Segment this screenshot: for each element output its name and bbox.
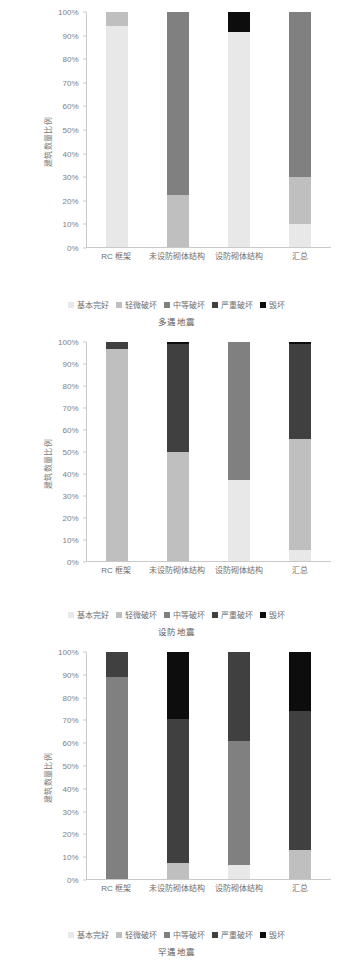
legend-swatch-icon [164, 302, 170, 308]
bar-segment[interactable] [289, 711, 311, 849]
bar-slot [151, 652, 205, 879]
legend-label: 基本完好 [77, 929, 109, 940]
x-axis-label: 设防砌体结构 [209, 564, 268, 575]
bar-segment[interactable] [289, 550, 311, 561]
plot-area-2: 建筑数量比例 0%10%20%30%40%50%60%70%80%90%100%… [17, 330, 337, 598]
x-axis-label: 汇总 [270, 564, 329, 575]
legend-item[interactable]: 轻微破坏 [116, 929, 157, 940]
y-tick-label: 100% [58, 648, 78, 657]
legend-label: 严重破坏 [221, 609, 253, 620]
legend-label: 毁坏 [269, 299, 285, 310]
stacked-bar[interactable] [106, 12, 128, 247]
x-axis-labels-1: RC 框架未设防砌体结构设防砌体结构汇总 [86, 248, 331, 262]
x-axis-label: 未设防砌体结构 [148, 882, 207, 893]
stacked-bar[interactable] [167, 12, 189, 247]
y-tick-label: 100% [58, 8, 78, 17]
bar-segment[interactable] [289, 344, 311, 439]
stacked-bar[interactable] [228, 12, 250, 247]
legend-item[interactable]: 基本完好 [68, 299, 109, 310]
stacked-bar[interactable] [106, 342, 128, 561]
bar-segment[interactable] [167, 652, 189, 719]
y-tick-label: 50% [62, 448, 78, 457]
legend-item[interactable]: 毁坏 [260, 299, 285, 310]
legend-label: 中等破坏 [173, 929, 205, 940]
legend-item[interactable]: 轻微破坏 [116, 609, 157, 620]
legend-swatch-icon [68, 302, 74, 308]
legend-label: 中等破坏 [173, 299, 205, 310]
bar-segment[interactable] [167, 12, 189, 195]
legend-item[interactable]: 中等破坏 [164, 929, 205, 940]
bar-segment[interactable] [289, 12, 311, 177]
legend-swatch-icon [68, 932, 74, 938]
y-tick-label: 0% [67, 876, 79, 885]
bar-segment[interactable] [106, 12, 128, 26]
legend-label: 轻微破坏 [125, 299, 157, 310]
y-tick-label: 80% [62, 382, 78, 391]
bar-segment[interactable] [167, 195, 189, 247]
bar-segment[interactable] [228, 741, 250, 866]
stacked-bar[interactable] [289, 652, 311, 879]
x-axis-labels-2: RC 框架未设防砌体结构设防砌体结构汇总 [86, 562, 331, 576]
legend-label: 轻微破坏 [125, 929, 157, 940]
bars-container-1 [86, 12, 331, 248]
legend-item[interactable]: 轻微破坏 [116, 299, 157, 310]
plot-area-3: 建筑数量比例 0%10%20%30%40%50%60%70%80%90%100%… [17, 640, 337, 916]
stacked-bar[interactable] [228, 652, 250, 879]
x-axis-label: 设防砌体结构 [209, 882, 268, 893]
x-axis-labels-3: RC 框架未设防砌体结构设防砌体结构汇总 [86, 880, 331, 894]
chart-panel-3: 建筑数量比例 0%10%20%30%40%50%60%70%80%90%100%… [0, 640, 353, 960]
bar-segment[interactable] [228, 480, 250, 561]
bar-slot [273, 342, 327, 561]
axis-area-2: 0%10%20%30%40%50%60%70%80%90%100% [53, 342, 331, 562]
legend-item[interactable]: 严重破坏 [212, 609, 253, 620]
stacked-bar[interactable] [167, 652, 189, 879]
bar-segment[interactable] [289, 224, 311, 248]
bar-segment[interactable] [106, 652, 128, 677]
legend-item[interactable]: 中等破坏 [164, 299, 205, 310]
axis-area-3: 0%10%20%30%40%50%60%70%80%90%100% [53, 652, 331, 880]
legend-label: 毁坏 [269, 609, 285, 620]
bar-segment[interactable] [167, 719, 189, 863]
bar-segment[interactable] [167, 452, 189, 562]
stacked-bar[interactable] [289, 12, 311, 247]
bar-segment[interactable] [228, 32, 250, 247]
bar-segment[interactable] [289, 439, 311, 550]
y-tick-label: 80% [62, 55, 78, 64]
legend-item[interactable]: 毁坏 [260, 609, 285, 620]
bar-segment[interactable] [106, 677, 128, 879]
legend-label: 基本完好 [77, 609, 109, 620]
bar-segment[interactable] [228, 342, 250, 480]
bar-segment[interactable] [289, 850, 311, 880]
bar-slot [151, 12, 205, 247]
y-tick-label: 10% [62, 853, 78, 862]
y-tick-label: 50% [62, 762, 78, 771]
y-tick-label: 30% [62, 173, 78, 182]
legend-item[interactable]: 毁坏 [260, 929, 285, 940]
chart-panel-1: 建筑数量比例 0%10%20%30%40%50%60%70%80%90%100%… [0, 0, 353, 330]
legend-item[interactable]: 基本完好 [68, 609, 109, 620]
bar-segment[interactable] [289, 177, 311, 224]
stacked-bar[interactable] [167, 342, 189, 561]
bar-segment[interactable] [167, 344, 189, 451]
y-axis-ticks-3: 0%10%20%30%40%50%60%70%80%90%100% [53, 652, 83, 880]
legend-item[interactable]: 严重破坏 [212, 299, 253, 310]
bar-segment[interactable] [167, 863, 189, 879]
bar-segment[interactable] [228, 12, 250, 32]
stacked-bar[interactable] [106, 652, 128, 879]
bar-segment[interactable] [228, 865, 250, 879]
stacked-bar[interactable] [228, 342, 250, 561]
y-tick-label: 20% [62, 830, 78, 839]
chart-title-2: 设防地震 [0, 625, 353, 637]
y-tick-label: 10% [62, 220, 78, 229]
stacked-bar[interactable] [289, 342, 311, 561]
legend-item[interactable]: 基本完好 [68, 929, 109, 940]
bar-slot [212, 342, 266, 561]
legend-item[interactable]: 中等破坏 [164, 609, 205, 620]
bar-segment[interactable] [106, 349, 128, 561]
bar-segment[interactable] [289, 652, 311, 711]
legend-item[interactable]: 严重破坏 [212, 929, 253, 940]
legend-swatch-icon [164, 612, 170, 618]
bar-segment[interactable] [228, 652, 250, 741]
bar-segment[interactable] [106, 26, 128, 247]
y-tick-label: 70% [62, 78, 78, 87]
